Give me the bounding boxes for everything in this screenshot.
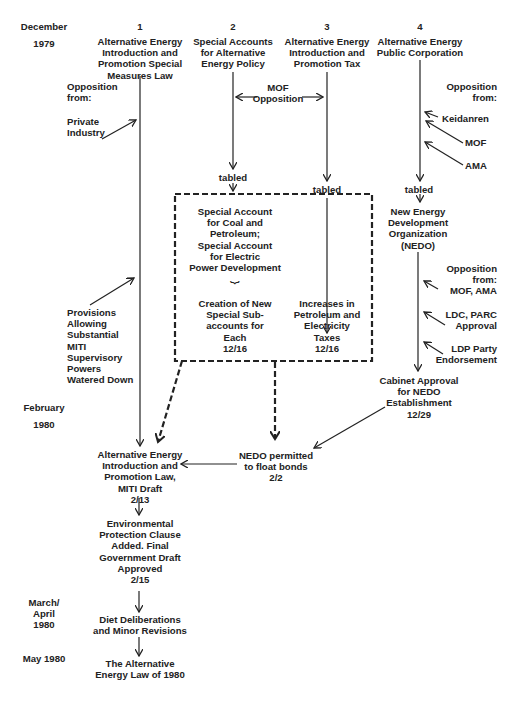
timeline-february: February [14,402,74,413]
miti-draft: Alternative Energy Introduction and Prom… [88,449,192,505]
col1-opposition-label: Opposition from: [67,81,137,103]
col4-mof: MOF [465,137,505,148]
alternative-energy-law-1980: The Alternative Energy Law of 1980 [80,658,200,680]
col2-tabled: tabled [210,172,256,183]
timeline-march-april-1980: March/ April 1980 [14,597,74,631]
col4-ldp-endorsement: LDP Party Endorsement [420,343,497,365]
col4-opposition-mof-ama: Opposition from: MOF, AMA [425,263,497,297]
environmental-clause: Environmental Protection Clause Added. F… [88,518,192,585]
nedo-float-bonds: NEDO permitted to float bonds 2/2 [236,450,316,484]
col1-private-industry: Private Industry [67,116,127,138]
column-number-1: 1 [100,21,180,32]
column-number-4: 4 [380,21,460,32]
sub-accounts-creation: Creation of New Special Sub- accounts fo… [185,298,285,354]
column-number-2: 2 [193,21,273,32]
tax-increases: Increases in Petroleum and Electricity T… [280,298,374,354]
timeline-december: December [14,21,74,32]
col4-ldc-parc-approval: LDC, PARC Approval [425,309,497,331]
timeline-may-1980: May 1980 [14,653,74,664]
mof-opposition-label: MOF Opposition [243,82,313,104]
column-number-3: 3 [287,21,367,32]
timeline-1980: 1980 [14,419,74,430]
column-title-1: Alternative Energy Introduction and Prom… [85,36,195,81]
column-title-2: Special Accounts for Alternative Energy … [180,36,286,70]
col4-keidanren: Keidanren [442,113,502,124]
col4-tabled: tabled [396,184,442,195]
nedo-organization: New Energy Development Organization (NED… [368,206,468,251]
cabinet-approval-nedo: Cabinet Approval for NEDO Establishment … [368,375,470,420]
col1-provisions-watered-down: Provisions Allowing Substantial MITI Sup… [67,307,147,385]
col4-ama: AMA [465,160,505,171]
col3-tabled: tabled [304,184,350,195]
col4-opposition-label: Opposition from: [425,81,497,103]
column-title-4: Alternative Energy Public Corporation [365,36,475,58]
timeline-1979: 1979 [14,38,74,49]
special-accounts-coal-electric: Special Account for Coal and Petroleum; … [180,206,290,273]
brace-icon: ⏟ [200,270,270,280]
diet-deliberations: Diet Deliberations and Minor Revisions [80,614,200,636]
